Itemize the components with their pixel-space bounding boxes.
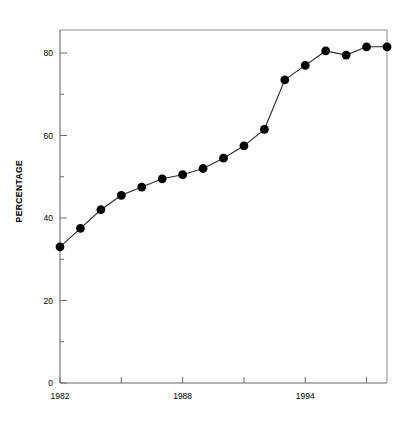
data-point — [240, 141, 249, 150]
y-tick-label: 80 — [44, 48, 54, 58]
series-line-percentage — [60, 47, 387, 247]
series-markers — [56, 42, 392, 251]
data-point — [301, 61, 310, 70]
data-point — [137, 183, 146, 192]
data-point — [76, 224, 85, 233]
data-point — [178, 170, 187, 179]
data-point — [260, 125, 269, 134]
x-axis-tick-labels: 198219881994 — [51, 391, 315, 401]
x-tick-label: 1994 — [296, 391, 315, 401]
y-tick-label: 60 — [44, 131, 54, 141]
data-point — [321, 47, 330, 56]
y-tick-label: 40 — [44, 213, 54, 223]
data-point — [362, 42, 371, 51]
y-axis-tick-labels: 020406080 — [44, 48, 54, 388]
plot-frame-top-right — [60, 30, 387, 383]
y-tick-label: 0 — [48, 378, 53, 388]
x-tick-label: 1982 — [51, 391, 70, 401]
chart-plot-area: 020406080 198219881994 — [0, 0, 403, 425]
data-point — [199, 164, 208, 173]
data-point — [117, 191, 126, 200]
chart-container: PERCENTAGE 020406080 198219881994 — [0, 0, 403, 425]
data-point — [219, 154, 228, 163]
data-point — [96, 205, 105, 214]
data-point — [280, 75, 289, 84]
data-point — [342, 51, 351, 60]
data-point — [383, 42, 392, 51]
x-tick-label: 1988 — [173, 391, 192, 401]
data-point — [56, 242, 65, 251]
y-axis-ticks — [60, 53, 67, 383]
data-point — [158, 174, 167, 183]
x-axis-ticks — [60, 377, 367, 383]
y-tick-label: 20 — [44, 296, 54, 306]
